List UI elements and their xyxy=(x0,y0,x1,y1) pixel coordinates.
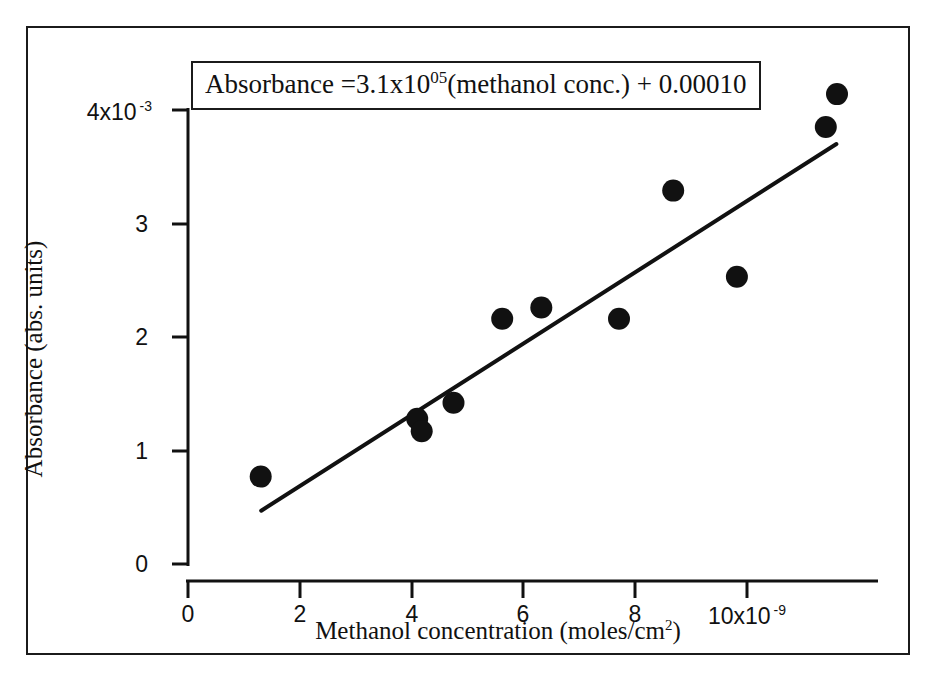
y-tick-text: 2 xyxy=(135,324,148,350)
x-axis-title-suffix: ) xyxy=(673,617,681,644)
equation-exponent: 05 xyxy=(430,68,447,87)
x-axis-title: Methanol concentration (moles/cm2) xyxy=(188,617,808,645)
y-tick-label-3: 3 xyxy=(135,213,148,236)
equation-annotation-box: Absorbance =3.1x1005(methanol conc.) + 0… xyxy=(191,61,761,110)
y-tick-label-0: 0 xyxy=(135,553,148,576)
y-tick-label-4: 4x10-3 xyxy=(87,99,152,124)
x-axis-title-text: Methanol concentration (moles/cm xyxy=(315,617,665,644)
x-axis-title-superscript: 2 xyxy=(665,617,673,633)
y-tick-text: 1 xyxy=(135,438,148,464)
y-tick-label-2: 2 xyxy=(135,326,148,349)
y-tick-text: 0 xyxy=(135,551,148,577)
y-tick-exponent: -3 xyxy=(140,98,152,114)
figure-root: 0 1 2 3 4x10-3 0 2 4 6 8 10x10-9 Absorba… xyxy=(0,0,931,683)
y-tick-text: 3 xyxy=(135,211,148,237)
x-tick-exponent: -9 xyxy=(774,602,786,618)
y-tick-label-1: 1 xyxy=(135,440,148,463)
figure-outer-frame xyxy=(26,26,910,655)
equation-prefix-text: Absorbance =3.1x10 xyxy=(205,69,430,99)
y-axis-title: Absorbance (abs. units) xyxy=(20,209,48,509)
equation-suffix-text: (methanol conc.) + 0.00010 xyxy=(447,69,746,99)
y-tick-text: 4x10 xyxy=(87,99,137,125)
